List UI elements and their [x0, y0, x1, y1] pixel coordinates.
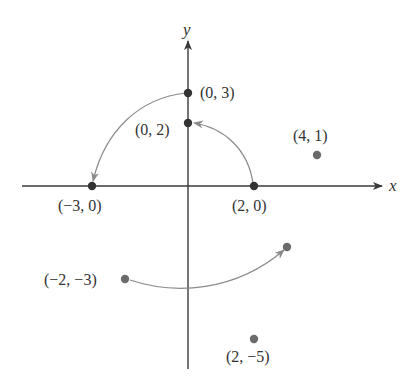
point-0-3: [184, 89, 192, 97]
point-0-2: [184, 119, 192, 127]
point-2-0: [250, 182, 258, 190]
y-axis-label: y: [181, 20, 191, 39]
x-axis-label: x: [388, 176, 397, 195]
label-m3-0: (−3, 0): [58, 197, 102, 215]
point-m2-m3: [121, 275, 129, 283]
diagram-canvas: x y (0, 3) (0, 2) (4, 1) (−3, 0) (2, 0) …: [0, 0, 417, 383]
point-3-m2: [283, 243, 291, 251]
label-2-0: (2, 0): [232, 197, 267, 215]
point-4-1: [313, 151, 321, 159]
rotation-arrow-m2-m3-to-3-m2: [130, 250, 284, 288]
label-0-3: (0, 3): [200, 84, 235, 102]
coordinate-diagram: x y (0, 3) (0, 2) (4, 1) (−3, 0) (2, 0) …: [0, 0, 417, 383]
label-2-m5: (2, −5): [226, 348, 270, 366]
point-2-m5: [250, 335, 258, 343]
label-m2-m3: (−2, −3): [44, 271, 97, 289]
label-0-2: (0, 2): [135, 121, 170, 139]
point-m3-0: [88, 182, 96, 190]
label-4-1: (4, 1): [293, 127, 328, 145]
rotation-arrow-2-0-to-0-2: [194, 123, 253, 183]
